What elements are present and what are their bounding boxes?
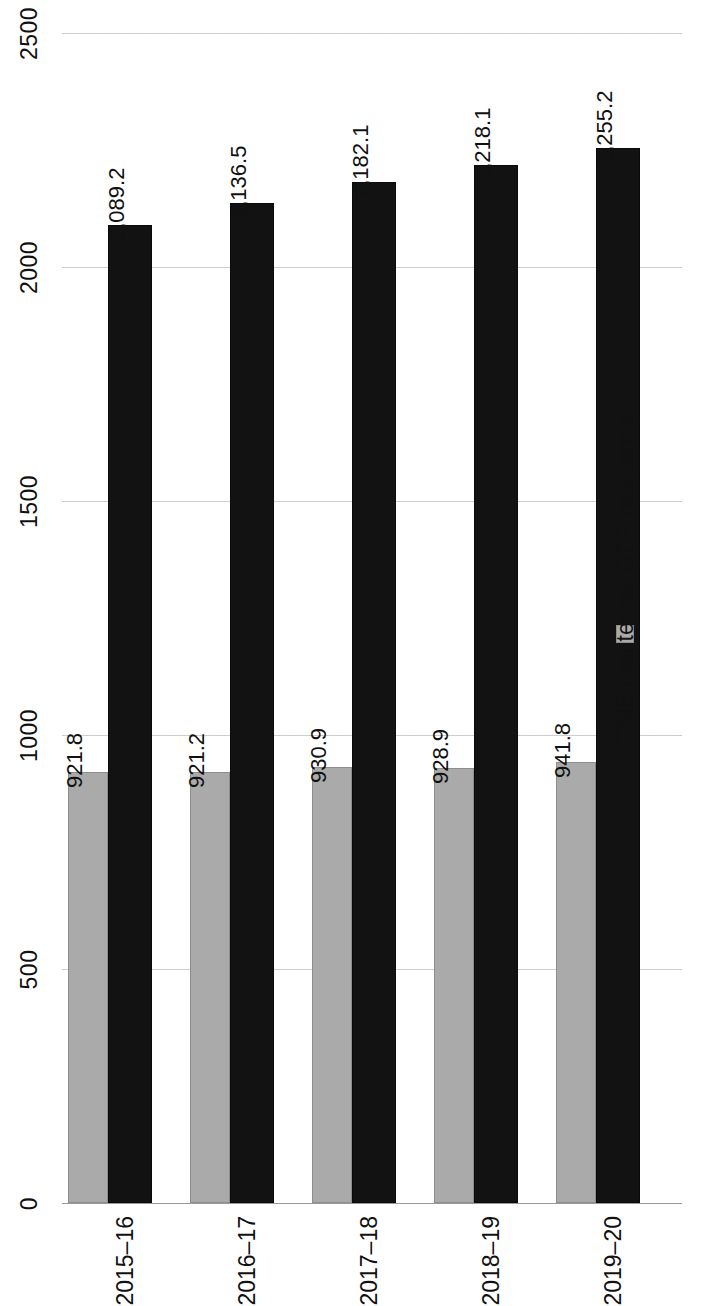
bar-gdp-2[interactable] <box>352 182 396 1203</box>
bar-label-gdp-4: 2,255.2 <box>592 90 618 163</box>
bar-label-tme-1: 921.2 <box>184 733 210 788</box>
category-label-2: 2017–18 <box>356 1216 383 1306</box>
ytick-label: 1000 <box>16 709 43 762</box>
bar-tme-4[interactable] <box>556 762 596 1203</box>
ytick-2000: 2000 <box>0 254 60 281</box>
bar-label-gdp-1: 2,136.5 <box>226 146 252 219</box>
ytick-label: 2000 <box>16 241 43 294</box>
bar-tme-3[interactable] <box>434 768 474 1203</box>
ytick-500: 500 <box>0 956 60 983</box>
bar-label-gdp-2: 2,182.1 <box>348 124 374 197</box>
ytick-label: 2500 <box>16 7 43 60</box>
bar-label-gdp-3: 2,218.1 <box>470 108 496 181</box>
chart-legend: GDP real terms TME real terms <box>646 0 706 1297</box>
bar-gdp-0[interactable] <box>108 225 152 1203</box>
bar-label-tme-3: 928.9 <box>428 729 454 784</box>
legend-label-gdp: GDP real terms <box>611 413 638 571</box>
ytick-label: 500 <box>17 950 44 990</box>
legend-item-tme[interactable]: TME real terms <box>547 625 704 676</box>
ytick-label: 0 <box>16 1197 43 1210</box>
category-label-3: 2018–19 <box>478 1216 505 1306</box>
ytick-0: 0 <box>0 1190 60 1217</box>
category-label-1: 2016–17 <box>234 1216 261 1306</box>
ytick-1500: 1500 <box>0 488 60 515</box>
value-axis-baseline <box>62 1203 682 1204</box>
bar-tme-1[interactable] <box>190 772 230 1203</box>
legend-label-tme: TME real terms <box>612 584 639 741</box>
bar-gdp-3[interactable] <box>474 165 518 1203</box>
bar-label-tme-0: 921.8 <box>62 733 88 788</box>
ytick-2500: 2500 <box>0 20 60 47</box>
bar-gdp-1[interactable] <box>230 203 274 1203</box>
bar-tme-0[interactable] <box>68 772 108 1203</box>
category-label-4: 2019–20 <box>600 1216 627 1306</box>
ytick-label: 1500 <box>16 475 43 528</box>
ytick-1000: 1000 <box>0 722 60 749</box>
category-label-0: 2015–16 <box>112 1216 139 1306</box>
gridline-2500 <box>62 33 682 34</box>
bar-label-gdp-0: 2,089.2 <box>104 168 130 241</box>
bar-label-tme-2: 930.9 <box>306 728 332 783</box>
bar-label-tme-4: 941.8 <box>550 723 576 778</box>
legend-item-gdp[interactable]: GDP real terms <box>546 455 704 506</box>
bar-tme-2[interactable] <box>312 767 352 1203</box>
